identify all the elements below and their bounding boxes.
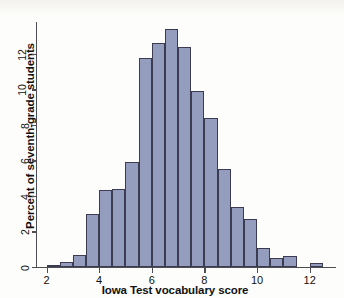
histogram-bar [283, 256, 296, 267]
y-axis-tick-label: 0 [19, 265, 31, 271]
x-axis-tick [257, 268, 258, 273]
histogram-bar [257, 248, 270, 267]
y-axis-tick-label: 10 [16, 84, 28, 96]
y-axis-tick-label: 12 [16, 49, 28, 61]
x-axis-tick [204, 268, 205, 273]
histogram-bar [47, 265, 60, 267]
histogram-bar [86, 214, 99, 267]
histogram-bar [310, 263, 323, 267]
y-axis-tick-label: 8 [19, 123, 31, 129]
x-axis-tick-label: 12 [304, 274, 316, 286]
x-axis-tick-label: 4 [96, 274, 102, 286]
x-axis-tick-label: 10 [251, 274, 263, 286]
histogram-bar [112, 189, 125, 267]
histogram-bar [191, 91, 204, 267]
histogram-bar [244, 219, 257, 267]
x-axis-tick [152, 268, 153, 273]
x-axis-tick-label: 2 [43, 274, 49, 286]
histogram-figure: Percent of seventh-grade students Iowa T… [0, 0, 344, 298]
histogram-bar [152, 43, 165, 267]
histogram-bar [73, 255, 86, 267]
histogram-bar [60, 262, 73, 267]
x-axis-tick [310, 268, 311, 273]
plot-area: 024681012 24681012 [36, 22, 336, 268]
histogram-bar [165, 29, 178, 267]
histogram-bar [99, 190, 112, 267]
histogram-bar [178, 47, 191, 267]
x-axis-title: Iowa Test vocabulary score [30, 284, 320, 296]
histogram-bar [270, 258, 283, 267]
y-axis-tick-label: 6 [19, 158, 31, 164]
histogram-bars [36, 22, 336, 268]
x-axis-tick-label: 6 [149, 274, 155, 286]
histogram-bar [204, 118, 217, 267]
y-axis-tick-label: 2 [19, 229, 31, 235]
histogram-bar [218, 169, 231, 267]
x-axis-tick [47, 268, 48, 273]
x-axis-tick-label: 8 [201, 274, 207, 286]
y-axis-tick-label: 4 [19, 194, 31, 200]
histogram-bar [231, 207, 244, 267]
histogram-bar [125, 162, 138, 267]
x-axis-tick [99, 268, 100, 273]
histogram-bar [139, 58, 152, 267]
